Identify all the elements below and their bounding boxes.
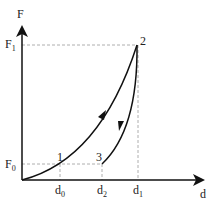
tick-d0: d0 — [55, 184, 65, 199]
x-axis-label: d — [200, 188, 206, 200]
loading-curve — [22, 45, 137, 180]
tick-F1: F1 — [5, 38, 16, 53]
up-arrow-icon — [98, 110, 106, 120]
tick-d2: d2 — [97, 184, 107, 199]
force-displacement-diagram — [0, 0, 213, 206]
point-3-label: 3 — [96, 151, 102, 163]
point-2-label: 2 — [140, 35, 146, 47]
tick-F0: F0 — [5, 158, 16, 173]
guide-lines — [22, 45, 138, 180]
down-arrow-icon — [118, 121, 124, 131]
point-1-label: 1 — [57, 151, 63, 163]
tick-d1: d1 — [133, 184, 143, 199]
unloading-curve — [102, 45, 137, 164]
y-axis-label: F — [17, 8, 24, 20]
